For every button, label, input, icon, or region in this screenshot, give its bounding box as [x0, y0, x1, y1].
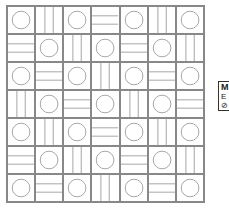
circle-icon — [64, 7, 90, 33]
tile-vertical-lines — [63, 34, 91, 62]
vertical-lines-icon — [149, 119, 175, 145]
circle-icon — [177, 7, 203, 33]
circle-icon — [8, 7, 34, 33]
tile-vertical-lines — [35, 6, 63, 34]
tile-horizontal-lines — [148, 62, 176, 90]
tile-vertical-lines — [176, 34, 204, 62]
horizontal-lines-icon — [121, 147, 147, 173]
circle-icon — [177, 175, 203, 201]
vertical-lines-icon — [177, 147, 203, 173]
horizontal-lines-icon — [149, 63, 175, 89]
tile-vertical-lines — [148, 118, 176, 146]
horizontal-lines-icon — [8, 147, 34, 173]
circle-icon — [92, 91, 118, 117]
tile-horizontal-lines — [148, 174, 176, 202]
tile-circle — [35, 146, 63, 174]
vertical-lines-icon — [64, 35, 90, 61]
tile-circle — [35, 34, 63, 62]
tile-circle — [148, 34, 176, 62]
circle-icon — [8, 119, 34, 145]
tile-circle — [7, 118, 35, 146]
tile-horizontal-lines — [35, 174, 63, 202]
vertical-lines-icon — [92, 63, 118, 89]
horizontal-lines-icon — [121, 35, 147, 61]
circle-icon — [64, 63, 90, 89]
panel-line-1: E — [221, 92, 229, 101]
tile-circle — [91, 146, 119, 174]
tile-vertical-lines — [120, 90, 148, 118]
circle-icon — [64, 175, 90, 201]
vertical-lines-icon — [36, 7, 62, 33]
circle-icon — [8, 63, 34, 89]
tile-circle — [120, 6, 148, 34]
circle-icon — [121, 7, 147, 33]
circle-icon — [121, 175, 147, 201]
panel-title: M — [221, 83, 229, 92]
side-panel: M E ⊘ — [218, 81, 229, 111]
tile-circle — [176, 118, 204, 146]
tile-circle — [176, 62, 204, 90]
tile-circle — [120, 118, 148, 146]
horizontal-lines-icon — [92, 119, 118, 145]
horizontal-lines-icon — [92, 7, 118, 33]
tile-circle — [63, 62, 91, 90]
vertical-lines-icon — [121, 91, 147, 117]
vertical-lines-icon — [64, 147, 90, 173]
circle-icon — [36, 35, 62, 61]
tile-circle — [176, 6, 204, 34]
tile-horizontal-lines — [35, 62, 63, 90]
tile-horizontal-lines — [7, 146, 35, 174]
circle-icon — [149, 147, 175, 173]
tile-horizontal-lines — [91, 118, 119, 146]
circle-icon — [177, 119, 203, 145]
vertical-lines-icon — [8, 91, 34, 117]
vertical-lines-icon — [36, 119, 62, 145]
tile-vertical-lines — [7, 90, 35, 118]
vertical-lines-icon — [177, 35, 203, 61]
circle-icon — [177, 63, 203, 89]
tile-circle — [120, 62, 148, 90]
tile-circle — [7, 6, 35, 34]
tile-circle — [148, 90, 176, 118]
tile-circle — [176, 174, 204, 202]
circle-icon — [8, 175, 34, 201]
tile-vertical-lines — [176, 146, 204, 174]
tile-horizontal-lines — [63, 90, 91, 118]
tile-vertical-lines — [148, 6, 176, 34]
circle-icon — [92, 147, 118, 173]
circle-icon — [149, 91, 175, 117]
horizontal-lines-icon — [149, 175, 175, 201]
circle-icon — [36, 147, 62, 173]
tile-circle — [63, 174, 91, 202]
tile-circle — [7, 62, 35, 90]
circle-icon — [121, 119, 147, 145]
horizontal-lines-icon — [64, 91, 90, 117]
tile-horizontal-lines — [7, 34, 35, 62]
horizontal-lines-icon — [177, 91, 203, 117]
tile-horizontal-lines — [91, 6, 119, 34]
horizontal-lines-icon — [8, 35, 34, 61]
tile-circle — [7, 174, 35, 202]
tile-circle — [63, 118, 91, 146]
vertical-lines-icon — [149, 7, 175, 33]
tile-circle — [63, 6, 91, 34]
horizontal-lines-icon — [36, 175, 62, 201]
tile-horizontal-lines — [176, 90, 204, 118]
tile-vertical-lines — [91, 174, 119, 202]
tile-horizontal-lines — [120, 146, 148, 174]
circle-icon — [36, 91, 62, 117]
horizontal-lines-icon — [36, 63, 62, 89]
tile-vertical-lines — [35, 118, 63, 146]
tile-horizontal-lines — [120, 34, 148, 62]
tile-circle — [120, 174, 148, 202]
tile-circle — [35, 90, 63, 118]
tile-vertical-lines — [63, 146, 91, 174]
panel-line-2: ⊘ — [221, 101, 229, 110]
circle-icon — [121, 63, 147, 89]
circle-icon — [64, 119, 90, 145]
tile-grid — [6, 5, 205, 203]
circle-icon — [149, 35, 175, 61]
tile-circle — [91, 90, 119, 118]
tile-vertical-lines — [91, 62, 119, 90]
vertical-lines-icon — [92, 175, 118, 201]
